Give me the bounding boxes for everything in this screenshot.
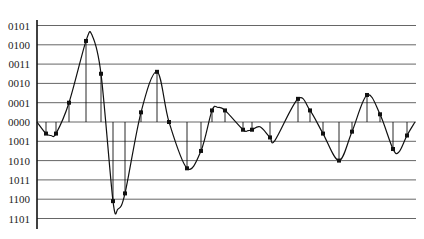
sample-marker (44, 132, 48, 136)
y-tick-label: 1101 (8, 213, 30, 225)
sample-marker (250, 128, 254, 132)
sample-marker (268, 135, 272, 139)
sample-marker (378, 112, 382, 116)
sample-marker (321, 132, 325, 136)
sample-marker (199, 149, 203, 153)
y-tick-label: 1100 (8, 193, 30, 205)
sample-point-markers (44, 39, 409, 203)
sample-marker (99, 72, 103, 76)
sample-marker (139, 110, 143, 114)
quantization-waveform-chart: 0101010000110010000100001001101010111100… (0, 0, 424, 239)
sample-marker (167, 120, 171, 124)
y-tick-label: 1010 (8, 155, 31, 167)
sample-marker (155, 70, 159, 74)
horizontal-gridlines (37, 26, 416, 219)
sample-marker (337, 159, 341, 163)
sample-marker (391, 147, 395, 151)
y-tick-label: 0001 (8, 97, 30, 109)
sample-marker (350, 130, 354, 134)
sample-marker (54, 132, 58, 136)
y-tick-label: 0000 (8, 116, 31, 128)
sample-marker (296, 97, 300, 101)
sample-marker (185, 166, 189, 170)
y-tick-label: 1001 (8, 135, 30, 147)
sample-marker (308, 108, 312, 112)
y-tick-label: 0100 (8, 39, 31, 51)
y-tick-label: 0101 (8, 20, 30, 32)
sample-marker (210, 108, 214, 112)
y-tick-label: 1011 (8, 174, 30, 186)
sample-marker (67, 101, 71, 105)
analog-signal-curve (37, 32, 415, 214)
sample-marker (84, 39, 88, 43)
y-tick-label: 0011 (8, 58, 30, 70)
sample-marker (123, 191, 127, 195)
sample-marker (365, 93, 369, 97)
sample-marker (241, 128, 245, 132)
y-tick-label: 0010 (8, 77, 31, 89)
sample-marker (405, 134, 409, 138)
sample-marker (223, 108, 227, 112)
y-axis-tick-labels: 0101010000110010000100001001101010111100… (8, 20, 31, 225)
sample-marker (111, 199, 115, 203)
